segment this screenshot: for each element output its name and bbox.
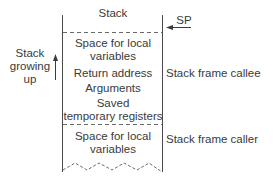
cell-callee-locals-line-1: Space for local [63,37,163,50]
cell-saved-registers-line-2: temporary registers [63,110,163,123]
growth-label-line-2: growing [8,60,52,73]
cell-callee-locals-line-2: variables [63,50,163,63]
stack-zigzag-bottom [63,163,162,172]
cell-caller-locals-line-1: Space for local [63,130,163,143]
cell-saved-registers-line-1: Saved [63,97,163,110]
frame-label-callee: Stack frame callee [166,67,261,80]
stack-title: Stack [63,7,163,20]
growth-label-line-1: Stack [8,47,52,60]
sp-label: SP [172,14,196,27]
growth-label-line-3: up [8,73,52,86]
cell-arguments: Arguments [63,82,163,95]
growth-arrow-icon [53,54,58,61]
cell-return-address: Return address [63,67,163,80]
frame-label-caller: Stack frame caller [166,133,258,146]
cell-caller-locals-line-2: variables [63,143,163,156]
